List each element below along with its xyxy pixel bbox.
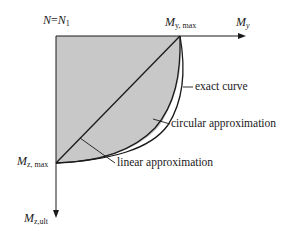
mz-max-label: Mz, max: [16, 154, 48, 169]
origin-label: N=N1: [42, 13, 70, 28]
mz-axis-label: Mz,ult: [23, 211, 49, 226]
exact-curve-label: exact curve: [195, 80, 248, 92]
mz-axis-arrow-icon: [53, 210, 59, 218]
interaction-diagram: N=N1 My, max My Mz, max Mz,ult exact cur…: [0, 0, 295, 231]
my-axis-label: My: [235, 15, 250, 30]
my-max-label: My, max: [164, 15, 196, 30]
my-axis-arrow-icon: [238, 33, 246, 39]
linear-approximation-label: linear approximation: [117, 156, 213, 169]
circular-approximation-label: circular approximation: [171, 117, 276, 130]
